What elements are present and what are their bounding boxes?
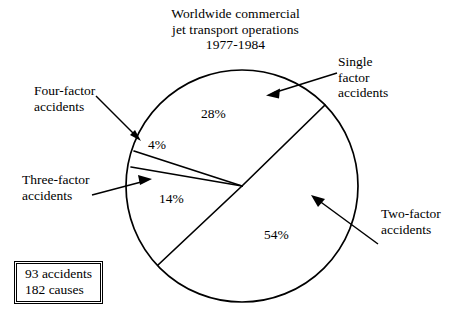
callout-single-factor-line-1: Single xyxy=(338,54,388,70)
leader-line-four-factor xyxy=(96,96,136,136)
slice-value-single-factor: 28% xyxy=(201,107,226,121)
callout-label-three-factor: Three-factor accidents xyxy=(22,172,89,203)
callout-two-factor-line-2: accidents xyxy=(381,222,441,238)
callout-four-factor-line-1: Four-factor xyxy=(34,83,95,99)
callout-two-factor-line-1: Two-factor xyxy=(381,206,441,222)
callout-three-factor-line-2: accidents xyxy=(22,188,89,204)
callout-single-factor-line-3: accidents xyxy=(338,85,388,101)
summary-box: 93 accidents 182 causes xyxy=(14,261,103,304)
callout-label-two-factor: Two-factor accidents xyxy=(381,206,441,237)
pie-chart-figure: Worldwide commercial jet transport opera… xyxy=(0,0,471,322)
slice-value-four-factor: 4% xyxy=(148,138,166,152)
callout-single-factor-line-2: factor xyxy=(338,70,388,86)
callout-four-factor-line-2: accidents xyxy=(34,99,95,115)
callout-label-single-factor: Single factor accidents xyxy=(338,54,388,101)
slice-value-two-factor: 54% xyxy=(264,228,289,242)
slice-value-three-factor: 14% xyxy=(159,192,184,206)
summary-causes-count: 182 causes xyxy=(25,282,92,298)
callout-label-four-factor: Four-factor accidents xyxy=(34,83,95,114)
summary-box-inner: 93 accidents 182 causes xyxy=(16,263,101,302)
summary-accidents-count: 93 accidents xyxy=(25,266,92,282)
callout-three-factor-line-1: Three-factor xyxy=(22,172,89,188)
